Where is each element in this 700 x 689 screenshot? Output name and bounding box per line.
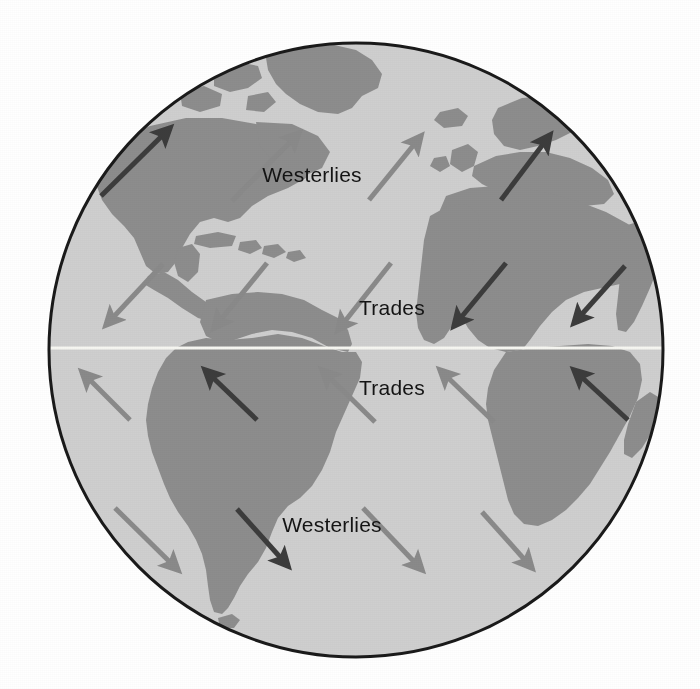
label-trades-south: Trades: [359, 376, 425, 399]
label-trades-north: Trades: [359, 296, 425, 319]
label-westerlies-south: Westerlies: [282, 513, 382, 536]
globe-diagram-stage: Westerlies Trades Trades Westerlies: [0, 0, 700, 689]
globe-illustration: Westerlies Trades Trades Westerlies: [0, 0, 700, 689]
label-westerlies-north: Westerlies: [262, 163, 362, 186]
